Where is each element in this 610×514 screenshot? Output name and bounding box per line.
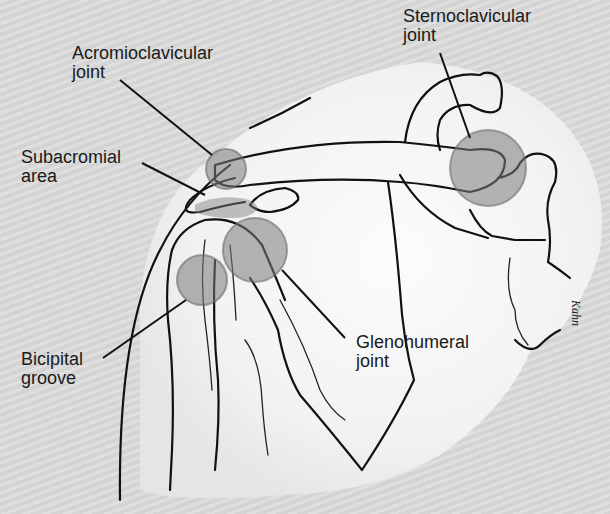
label-acromioclavicular-joint: Acromioclavicular joint xyxy=(72,44,213,82)
artist-signature: Kahn xyxy=(569,299,583,326)
bicipital-groove-marker xyxy=(177,255,227,305)
label-subacromial-area: Subacromial area xyxy=(21,148,121,186)
shoulder-diagram: Kahn Acromioclavicular joint Sternoclavi… xyxy=(0,0,610,514)
label-bicipital-groove: Bicipital groove xyxy=(21,350,83,388)
label-sternoclavicular-joint: Sternoclavicular joint xyxy=(403,7,531,45)
svg-text:Kahn: Kahn xyxy=(569,299,583,326)
sternoclavicular-joint-marker xyxy=(450,130,526,206)
glenohumeral-joint-marker xyxy=(223,218,287,282)
leader-acromioclavicular xyxy=(120,80,212,155)
label-glenohumeral-joint: Glenohumeral joint xyxy=(356,333,469,371)
